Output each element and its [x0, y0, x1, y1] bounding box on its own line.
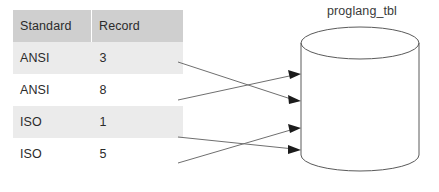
connector-row1 [178, 62, 301, 104]
database-cylinder [301, 27, 419, 171]
connector-overlay [0, 0, 439, 192]
connector-row2 [178, 70, 301, 100]
diagram-canvas: Standard Record ANSI 3 ANSI 8 ISO 1 ISO … [0, 0, 439, 192]
connector-row3 [178, 137, 301, 154]
